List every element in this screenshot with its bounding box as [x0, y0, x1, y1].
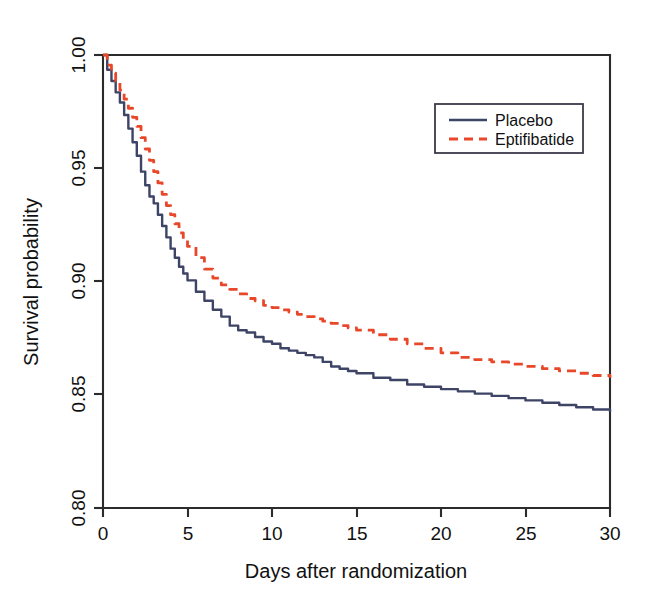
y-axis-title: Survival probability	[20, 198, 42, 366]
x-tick-label-30: 30	[599, 523, 620, 544]
chart-background	[0, 0, 649, 604]
chart-canvas: 1.00 0.95 0.90 0.85 0.80 0 5 10 15 20 25…	[0, 0, 649, 604]
legend-label-placebo: Placebo	[495, 112, 553, 129]
y-tick-label-0.80: 0.80	[68, 490, 89, 527]
legend-label-eptifibatide: Eptifibatide	[495, 131, 574, 148]
y-tick-label-1.00: 1.00	[68, 37, 89, 74]
x-axis-title: Days after randomization	[245, 560, 467, 582]
legend[interactable]: Placebo Eptifibatide	[435, 104, 583, 153]
y-tick-label-0.90: 0.90	[68, 263, 89, 300]
x-tick-label-10: 10	[261, 523, 282, 544]
x-tick-label-15: 15	[346, 523, 367, 544]
y-tick-label-0.95: 0.95	[68, 150, 89, 187]
x-tick-label-5: 5	[183, 523, 194, 544]
survival-probability-chart: 1.00 0.95 0.90 0.85 0.80 0 5 10 15 20 25…	[0, 0, 649, 604]
x-tick-label-0: 0	[98, 523, 109, 544]
x-tick-label-20: 20	[430, 523, 451, 544]
y-tick-label-0.85: 0.85	[68, 376, 89, 413]
x-tick-label-25: 25	[515, 523, 536, 544]
